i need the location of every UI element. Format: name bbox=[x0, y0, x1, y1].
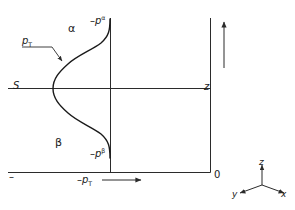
bulk-pressure-alpha-superscript: α bbox=[101, 14, 105, 21]
triad-z-label: z bbox=[259, 158, 264, 167]
phase-beta-label: β bbox=[55, 137, 62, 148]
pT-callout-leader bbox=[22, 47, 62, 61]
origin-label: 0 bbox=[214, 170, 220, 180]
x-axis-symbol: –p bbox=[77, 174, 88, 185]
figure-canvas bbox=[0, 0, 295, 210]
x-axis-subscript: T bbox=[88, 180, 92, 187]
pT-callout-label: pT bbox=[22, 36, 32, 48]
x-axis-label: –pT bbox=[77, 175, 92, 187]
phase-alpha-label: α bbox=[68, 23, 75, 34]
triad-y-axis bbox=[240, 185, 262, 193]
pT-callout-subscript: T bbox=[28, 41, 32, 48]
bulk-pressure-beta-superscript: β bbox=[101, 147, 105, 154]
coordinate-triad bbox=[240, 165, 284, 193]
z-axis-label: z bbox=[204, 82, 209, 92]
dividing-surface-label: S bbox=[13, 81, 19, 91]
bulk-pressure-alpha-label: –pα bbox=[90, 15, 105, 26]
bulk-pressure-alpha-symbol: –p bbox=[90, 15, 101, 26]
bulk-pressure-beta-label: –pβ bbox=[90, 148, 105, 159]
triad-y-label: y bbox=[232, 190, 237, 199]
left-minus-mark: – bbox=[9, 172, 14, 182]
pressure-profile-figure: α β S pT –pα –pβ –pT – 0 z z y x bbox=[0, 0, 295, 210]
bulk-pressure-beta-symbol: –p bbox=[90, 148, 101, 159]
triad-x-label: x bbox=[281, 190, 286, 199]
